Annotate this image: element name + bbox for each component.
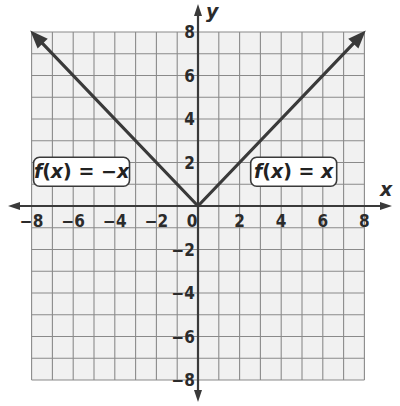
- chart: −8−6−4−202468−8−6−4−22468 f(x) = −xf(x) …: [0, 0, 400, 406]
- x-tick-label: 2: [234, 211, 245, 231]
- x-tick-label: 0: [187, 211, 198, 231]
- x-axis-label: x: [379, 178, 393, 200]
- x-tick-label: −4: [103, 211, 126, 231]
- y-tick-label: 4: [184, 109, 195, 129]
- y-tick-label: 6: [184, 66, 195, 86]
- x-tick-label: −6: [61, 211, 84, 231]
- x-tick-label: 4: [276, 211, 287, 231]
- x-tick-label: 6: [317, 211, 328, 231]
- y-tick-label: −4: [172, 283, 195, 303]
- y-axis-label: y: [206, 0, 220, 22]
- x-tick-label: −2: [145, 211, 168, 231]
- y-tick-label: 2: [184, 153, 195, 173]
- y-axis-arrow-down: [194, 390, 202, 402]
- y-tick-label: −8: [172, 370, 195, 390]
- y-tick-label: −2: [172, 240, 195, 260]
- function-label: f(x) = x: [251, 157, 337, 186]
- x-tick-label: 8: [359, 211, 370, 231]
- function-label: f(x) = −x: [34, 157, 130, 186]
- y-axis-arrow-up: [194, 4, 202, 16]
- function-label-text: f(x) = −x: [34, 160, 130, 182]
- y-tick-label: 8: [184, 22, 195, 42]
- y-tick-label: −6: [172, 327, 195, 347]
- x-axis-arrow-right: [380, 202, 392, 210]
- x-axis-arrow-left: [8, 202, 20, 210]
- function-label-text: f(x) = x: [254, 160, 334, 182]
- x-tick-label: −8: [20, 211, 43, 231]
